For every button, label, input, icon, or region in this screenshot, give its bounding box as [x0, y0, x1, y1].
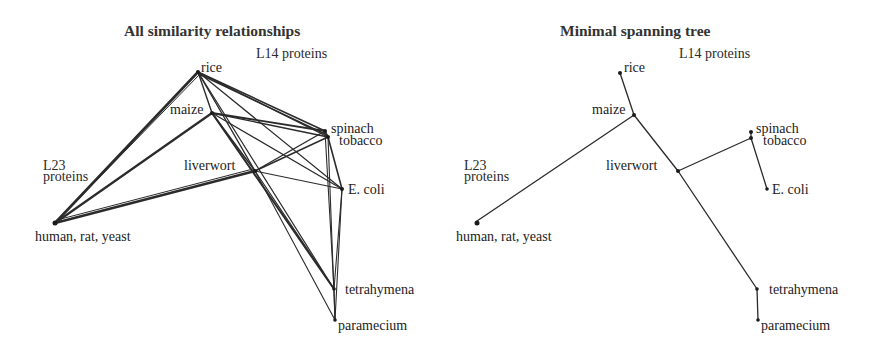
node-rice: [196, 70, 200, 74]
node-label-tobacco: tobacco: [763, 134, 807, 147]
node-label-ecoli: E. coli: [348, 183, 385, 196]
tree-node-spinach: [749, 130, 753, 134]
tree-node-human: [475, 221, 480, 226]
node-label-paramecium: paramecium: [761, 319, 830, 332]
node-label-rice: rice: [624, 61, 645, 74]
node-label-rice: rice: [201, 61, 222, 74]
node-label-human: human, rat, yeast: [35, 230, 131, 243]
tree-node-tetrahymena: [755, 287, 759, 291]
node-label-tetrahymena: tetrahymena: [345, 283, 414, 296]
node-label-maize: maize: [592, 103, 625, 116]
panel-all-similarity: All similarity relationships L14 protein…: [0, 0, 438, 348]
node-label-liverwort: liverwort: [606, 159, 657, 172]
node-label-maize: maize: [170, 103, 203, 116]
node-label-ecoli: E. coli: [772, 183, 809, 196]
panel-title: All similarity relationships: [124, 22, 300, 40]
node-ecoli: [340, 187, 344, 191]
panel-minimal-spanning-tree: Minimal spanning tree L14 proteins L23 p…: [438, 0, 876, 348]
tree-node-rice: [618, 71, 622, 75]
node-label-liverwort: liverwort: [184, 159, 235, 172]
tree-node-tobacco: [749, 136, 753, 140]
node-liverwort: [253, 169, 257, 173]
tree-node-ecoli: [765, 187, 769, 191]
group-label-l14: L14 proteins: [256, 48, 327, 60]
tree-node-maize: [632, 113, 636, 117]
node-spinach: [323, 129, 327, 133]
group-label-l23-line2: proteins: [464, 171, 509, 183]
panel-title: Minimal spanning tree: [560, 22, 710, 40]
tree-node-paramecium: [756, 318, 760, 322]
node-paramecium: [333, 318, 337, 322]
node-label-paramecium: paramecium: [338, 319, 407, 332]
node-maize: [210, 111, 214, 115]
tree-node-liverwort: [676, 169, 680, 173]
group-label-l23-line2: proteins: [43, 171, 88, 183]
node-label-human: human, rat, yeast: [456, 230, 552, 243]
node-tobacco: [326, 135, 330, 139]
node-label-tetrahymena: tetrahymena: [769, 283, 838, 296]
node-label-tobacco: tobacco: [339, 134, 383, 147]
node-human: [53, 221, 58, 226]
group-label-l14: L14 proteins: [679, 48, 750, 60]
node-tetrahymena: [332, 287, 336, 291]
